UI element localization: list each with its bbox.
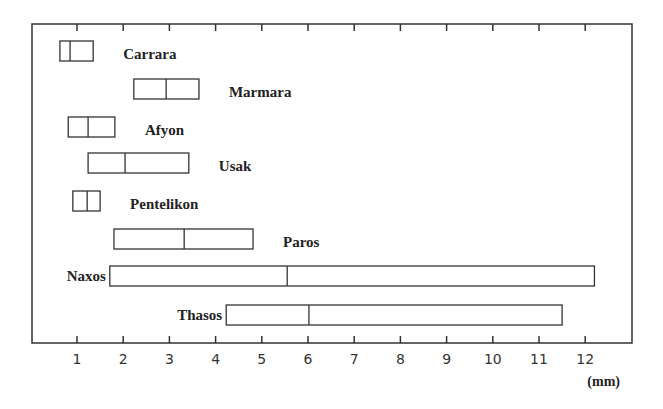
x-tick-label: 2 <box>119 351 128 367</box>
range-box-thasos: Thasos <box>177 305 562 325</box>
range-boxes: CarraraMarmaraAfyonUsakPentelikonParosNa… <box>60 41 595 325</box>
range-rect <box>88 153 189 173</box>
x-tick-label: 5 <box>257 351 266 367</box>
range-rect <box>68 117 115 137</box>
x-tick-label: 4 <box>211 351 220 367</box>
range-rect <box>110 266 595 286</box>
x-tick-label: 11 <box>530 351 548 367</box>
x-tick-label: 1 <box>73 351 82 367</box>
range-box-usak: Usak <box>88 153 252 174</box>
series-label: Usak <box>219 158 252 174</box>
range-rect <box>114 229 253 249</box>
range-rect <box>73 191 100 211</box>
range-box-paros: Paros <box>114 229 320 250</box>
x-tick-label: 10 <box>484 351 502 367</box>
range-box-carrara: Carrara <box>60 41 177 62</box>
x-axis-unit-label: (mm) <box>587 374 620 390</box>
range-box-naxos: Naxos <box>67 266 595 286</box>
x-tick-label: 6 <box>304 351 313 367</box>
series-label: Carrara <box>123 46 177 62</box>
series-label: Marmara <box>229 84 292 100</box>
range-box-afyon: Afyon <box>68 117 184 138</box>
series-label: Pentelikon <box>130 196 199 212</box>
x-tick-label: 3 <box>165 351 174 367</box>
range-box-marmara: Marmara <box>134 79 292 100</box>
range-rect <box>226 305 562 325</box>
x-tick-label: 8 <box>396 351 405 367</box>
x-tick-label: 9 <box>442 351 451 367</box>
grain-size-range-chart: 123456789101112 CarraraMarmaraAfyonUsakP… <box>0 0 663 409</box>
range-box-pentelikon: Pentelikon <box>73 191 199 212</box>
series-label: Thasos <box>177 307 222 323</box>
x-tick-label: 7 <box>350 351 359 367</box>
series-label: Naxos <box>67 268 106 284</box>
series-label: Paros <box>283 234 320 250</box>
series-label: Afyon <box>145 122 185 138</box>
plot-frame <box>32 24 632 343</box>
x-tick-label: 12 <box>576 351 594 367</box>
range-rect <box>60 41 93 61</box>
